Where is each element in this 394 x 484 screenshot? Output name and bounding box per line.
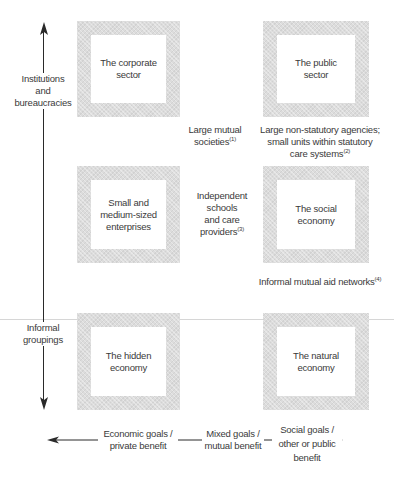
box-label: Small and medium-sized enterprises [91,180,166,249]
label-informal-mutual-aid-networks: Informal mutual aid networks(4) [250,276,390,288]
axis-label-social-goals: Social goals / other or public benefit [272,423,342,465]
box-hidden-economy: The hidden economy [77,313,180,410]
box-label: The social economy [277,180,355,249]
axis-label-economic-goals: Economic goals / private benefit [98,428,178,452]
box-corporate-sector: The corporate sector [77,21,180,117]
footnote-marker: (1) [229,136,236,142]
label-text: Large non-statutory agencies; small unit… [260,124,380,159]
footnote-marker: (3) [237,226,244,232]
box-label: The corporate sector [91,35,166,103]
axis-label-institutions: Institutions and bureaucracies [2,73,84,109]
label-large-mutual-societies: Large mutual societies(1) [170,124,260,148]
arrow-down-icon [39,396,49,410]
box-public-sector: The public sector [263,21,369,117]
box-small-medium-enterprises: Small and medium-sized enterprises [77,166,180,263]
label-independent-schools: Independent schools and care providers(3… [180,190,264,238]
box-label: The public sector [277,35,355,103]
box-natural-economy: The natural economy [263,313,369,410]
label-non-statutory-agencies: Large non-statutory agencies; small unit… [250,124,390,160]
box-label: The natural economy [277,327,355,396]
box-label: The hidden economy [91,327,166,396]
arrow-up-icon [39,22,49,36]
box-social-economy: The social economy [263,166,369,263]
label-text: Informal mutual aid networks [259,276,375,287]
axis-label-mixed-goals: Mixed goals / mutual benefit [202,428,264,452]
axis-label-informal-groupings: Informal groupings [10,322,76,346]
footnote-marker: (2) [343,148,350,154]
footnote-marker: (4) [375,276,382,282]
